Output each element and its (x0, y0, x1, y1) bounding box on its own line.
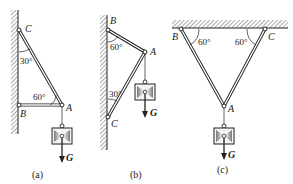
pin-C (263, 27, 267, 31)
angle-label-60: 60° (33, 92, 46, 102)
point-label-B: B (172, 31, 178, 42)
angle-label-30: 30° (20, 56, 33, 66)
pin-B (106, 28, 110, 32)
ceiling-c (172, 20, 288, 28)
panel-b: B A C 60° 30° G (b) (100, 15, 158, 181)
point-label-C: C (268, 31, 275, 42)
pin-A (143, 50, 147, 54)
point-label-B: B (20, 108, 26, 119)
angle-label-30: 30° (109, 89, 122, 99)
point-label-C: C (25, 23, 32, 34)
pin-C (106, 115, 110, 119)
wall-b (100, 15, 107, 150)
panel-a: C B A 30° 60° G (a) (11, 10, 74, 181)
load-label-G: G (150, 107, 158, 118)
caption-a: (a) (32, 169, 43, 181)
caption-b: (b) (130, 169, 142, 181)
pin-B (17, 103, 21, 107)
caption-c: (c) (217, 164, 228, 176)
load-label-G: G (228, 149, 236, 160)
point-label-C: C (111, 118, 118, 129)
angle-label-60-left: 60° (198, 37, 211, 47)
pin-A (60, 103, 64, 107)
panel-c: B C A 60° 60° G (c) (172, 20, 288, 176)
point-label-A: A (65, 102, 73, 113)
angle-arc-60-right (247, 29, 256, 45)
load-label-G: G (66, 152, 74, 163)
angle-arc-30 (108, 99, 117, 101)
point-label-A: A (227, 103, 235, 114)
statics-figure: C B A 30° 60° G (a) (0, 0, 293, 184)
point-label-B: B (110, 15, 116, 26)
angle-label-60-right: 60° (235, 37, 248, 47)
point-label-A: A (149, 46, 157, 57)
angle-label-60: 60° (110, 42, 123, 52)
pin-C (17, 28, 21, 32)
pin-B (179, 27, 183, 31)
pin-A (222, 104, 226, 108)
